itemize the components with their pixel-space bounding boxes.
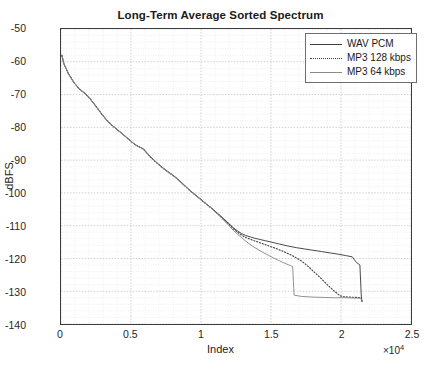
x-axis-exponent: ×104 [383, 343, 404, 356]
x-tick-label: 2.5 [392, 328, 432, 340]
y-tick-label: -130 [0, 286, 26, 298]
figure: Long-Term Average Sorted Spectrum dBFS I… [0, 0, 441, 369]
legend-label: MP3 64 kbps [347, 66, 405, 78]
y-axis-label: dBFS [3, 162, 15, 190]
x-tick-label: 1.5 [251, 328, 291, 340]
y-tick-label: -110 [0, 220, 26, 232]
chart-title: Long-Term Average Sorted Spectrum [0, 9, 441, 21]
series-line [62, 55, 362, 301]
x-tick-label: 1 [181, 328, 221, 340]
x-tick-label: 0 [40, 328, 80, 340]
x-exponent-base: ×10 [383, 345, 400, 356]
y-tick-label: -90 [0, 154, 26, 166]
y-tick-label: -140 [0, 319, 26, 331]
legend-label: MP3 128 kbps [347, 52, 411, 64]
x-tick-label: 2 [322, 328, 362, 340]
x-axis-label: Index [0, 343, 441, 355]
y-tick-label: -80 [0, 121, 26, 133]
legend: WAV PCMMP3 128 kbpsMP3 64 kbps [305, 33, 417, 83]
legend-entry[interactable]: MP3 64 kbps [310, 65, 411, 79]
legend-line-sample [310, 68, 342, 77]
y-tick-label: -60 [0, 55, 26, 67]
legend-line-sample [310, 54, 342, 63]
series-line [62, 55, 362, 301]
legend-line-sample [310, 40, 342, 49]
series-line [62, 55, 362, 301]
y-tick-label: -50 [0, 22, 26, 34]
legend-entry[interactable]: WAV PCM [310, 37, 411, 51]
y-tick-label: -100 [0, 187, 26, 199]
x-exponent-power: 4 [400, 343, 404, 352]
legend-entry[interactable]: MP3 128 kbps [310, 51, 411, 65]
y-tick-label: -70 [0, 88, 26, 100]
y-tick-label: -120 [0, 253, 26, 265]
legend-label: WAV PCM [347, 38, 394, 50]
x-tick-label: 0.5 [110, 328, 150, 340]
